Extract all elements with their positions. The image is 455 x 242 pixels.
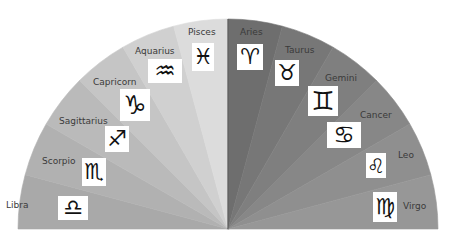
- virgo-icon: ♍︎: [373, 192, 397, 222]
- sign-label-sagittarius: Sagittarius: [59, 117, 108, 126]
- sign-label-aries: Aries: [240, 28, 263, 37]
- sagittarius-icon: ♐︎: [105, 126, 129, 152]
- libra-icon: ♎︎: [58, 196, 88, 220]
- pisces-icon: ♓︎: [192, 43, 214, 71]
- sign-label-capricorn: Capricorn: [93, 78, 136, 87]
- sign-label-virgo: Virgo: [403, 202, 426, 211]
- aquarius-icon: ♒︎: [148, 59, 182, 83]
- cancer-icon: ♋︎: [327, 122, 361, 148]
- taurus-icon: ♉︎: [275, 60, 299, 86]
- sign-label-aquarius: Aquarius: [135, 47, 175, 56]
- sign-label-cancer: Cancer: [360, 111, 392, 120]
- sign-label-scorpio: Scorpio: [42, 157, 76, 166]
- sign-label-pisces: Pisces: [188, 28, 216, 37]
- sign-label-gemini: Gemini: [325, 74, 357, 83]
- sign-label-taurus: Taurus: [285, 46, 314, 55]
- sign-label-leo: Leo: [398, 151, 414, 160]
- gemini-icon: ♊︎: [308, 86, 338, 116]
- leo-icon: ♌︎: [366, 153, 386, 178]
- capricorn-icon: ♑︎: [120, 89, 150, 121]
- aries-icon: ♈︎: [237, 44, 263, 70]
- scorpio-icon: ♏︎: [82, 158, 106, 186]
- sign-label-libra: Libra: [6, 201, 28, 210]
